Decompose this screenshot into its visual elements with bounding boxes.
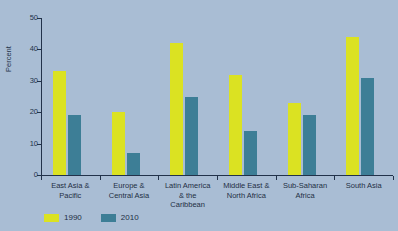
category-label-line: Africa — [276, 191, 335, 201]
bar-2010 — [127, 153, 140, 175]
category-label-line: Europe & — [100, 181, 159, 191]
x-tick-mark — [393, 176, 394, 180]
y-tick-label: 50 — [30, 13, 38, 22]
bar-group — [41, 18, 100, 175]
category-label-line: & the — [158, 191, 217, 201]
bar-1990 — [112, 112, 125, 175]
x-tick-mark — [41, 176, 42, 180]
bar-group — [100, 18, 159, 175]
x-tick-mark — [100, 176, 101, 180]
category-label-line: Central Asia — [100, 191, 159, 201]
category-label: South Asia — [334, 181, 393, 191]
x-tick-mark — [334, 176, 335, 180]
bar-2010 — [185, 97, 198, 176]
y-tick-label: 20 — [30, 107, 38, 116]
y-tick-label: 30 — [30, 76, 38, 85]
y-tick-label: 40 — [30, 44, 38, 53]
bar-2010 — [361, 78, 374, 175]
y-tick-label: 0 — [34, 170, 38, 179]
plot-area: 01020304050 — [41, 18, 393, 176]
legend-swatch-icon — [44, 214, 59, 222]
chart-legend: 19902010 — [44, 213, 151, 222]
bar-2010 — [244, 131, 257, 175]
chart-screenshot: Percent 01020304050 East Asia &PacificEu… — [0, 0, 398, 231]
category-label-line: Caribbean — [158, 200, 217, 210]
category-label: Middle East &North Africa — [217, 181, 276, 200]
bar-group — [158, 18, 217, 175]
category-label-line: South Asia — [334, 181, 393, 191]
bar-1990 — [346, 37, 359, 175]
x-axis-category-labels: East Asia &PacificEurope &Central AsiaLa… — [41, 181, 393, 215]
category-label: Latin America& theCaribbean — [158, 181, 217, 210]
bar-1990 — [288, 103, 301, 175]
bar-group — [334, 18, 393, 175]
category-label: Europe &Central Asia — [100, 181, 159, 200]
legend-label: 1990 — [64, 213, 82, 222]
bar-1990 — [229, 75, 242, 175]
legend-swatch-icon — [101, 214, 116, 222]
chart-title-clipped — [0, 0, 398, 2]
x-tick-mark — [276, 176, 277, 180]
category-label-line: Pacific — [41, 191, 100, 201]
category-label: Sub-SaharanAfrica — [276, 181, 335, 200]
bar-2010 — [303, 115, 316, 175]
y-axis-title: Percent — [4, 46, 13, 72]
bar-group — [276, 18, 335, 175]
legend-item-1990[interactable]: 1990 — [44, 213, 82, 222]
x-tick-mark — [217, 176, 218, 180]
category-label-line: North Africa — [217, 191, 276, 201]
x-tick-mark — [158, 176, 159, 180]
bar-1990 — [170, 43, 183, 175]
category-label: East Asia &Pacific — [41, 181, 100, 200]
legend-label: 2010 — [121, 213, 139, 222]
category-label-line: Sub-Saharan — [276, 181, 335, 191]
bar-1990 — [53, 71, 66, 175]
legend-item-2010[interactable]: 2010 — [101, 213, 139, 222]
bar-2010 — [68, 115, 81, 175]
bar-group — [217, 18, 276, 175]
y-tick-label: 10 — [30, 139, 38, 148]
category-label-line: Latin America — [158, 181, 217, 191]
category-label-line: Middle East & — [217, 181, 276, 191]
category-label-line: East Asia & — [41, 181, 100, 191]
